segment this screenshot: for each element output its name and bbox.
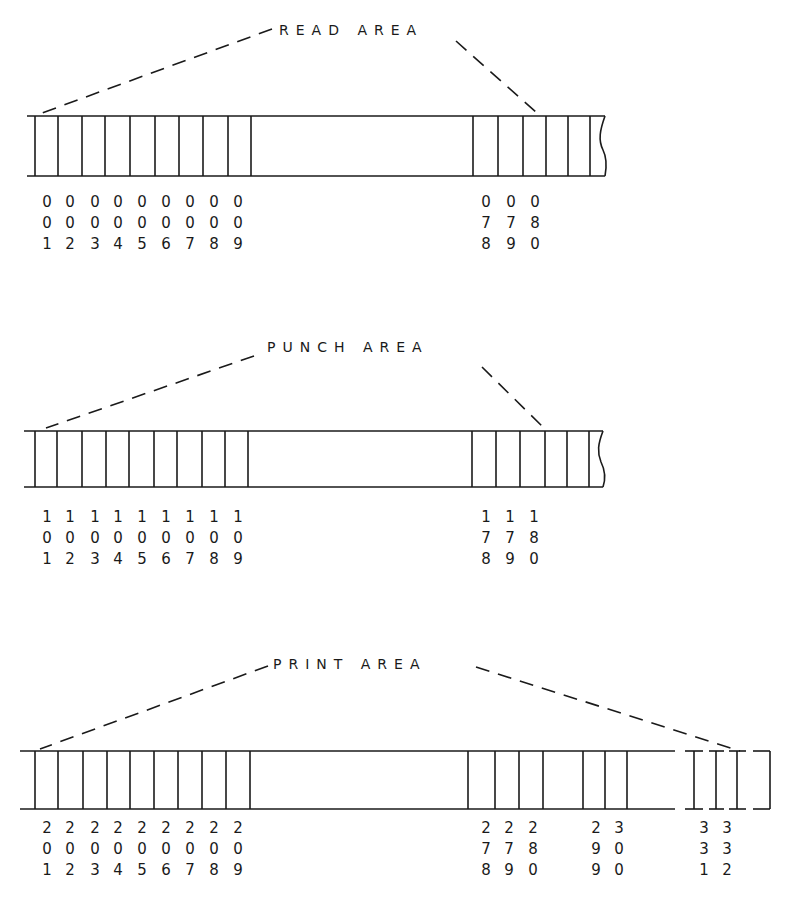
svg-text:0: 0 xyxy=(65,529,75,547)
svg-text:0: 0 xyxy=(614,861,624,879)
svg-text:2: 2 xyxy=(209,819,219,837)
svg-text:1: 1 xyxy=(42,508,52,526)
column-number: 0 7 9 xyxy=(506,193,516,253)
svg-text:7: 7 xyxy=(185,861,195,879)
svg-text:0: 0 xyxy=(161,214,171,232)
column-number: 1 0 8 xyxy=(209,508,219,568)
svg-text:3: 3 xyxy=(722,840,732,858)
svg-text:7: 7 xyxy=(185,550,195,568)
svg-text:0: 0 xyxy=(481,193,491,211)
svg-text:9: 9 xyxy=(591,840,601,858)
svg-text:1: 1 xyxy=(65,508,75,526)
column-number: 0 0 9 xyxy=(233,193,243,253)
read-strip xyxy=(27,116,606,176)
svg-text:0: 0 xyxy=(113,214,123,232)
column-number: 1 0 3 xyxy=(90,508,100,568)
svg-text:0: 0 xyxy=(233,529,243,547)
column-number: 2 0 2 xyxy=(65,819,75,879)
svg-text:9: 9 xyxy=(233,235,243,253)
read-area-leader-right xyxy=(456,41,537,113)
svg-text:0: 0 xyxy=(233,214,243,232)
svg-text:0: 0 xyxy=(137,214,147,232)
column-number: 1 0 9 xyxy=(233,508,243,568)
column-number: 0 0 7 xyxy=(185,193,195,253)
svg-text:1: 1 xyxy=(161,508,171,526)
svg-text:2: 2 xyxy=(504,819,514,837)
svg-text:3: 3 xyxy=(90,235,100,253)
svg-text:0: 0 xyxy=(185,193,195,211)
svg-text:7: 7 xyxy=(185,235,195,253)
svg-text:0: 0 xyxy=(161,529,171,547)
svg-text:1: 1 xyxy=(529,508,539,526)
punch-strip xyxy=(24,431,605,487)
svg-text:3: 3 xyxy=(614,819,624,837)
column-number: 2 0 1 xyxy=(42,819,52,879)
column-number: 1 0 4 xyxy=(113,508,123,568)
column-number: 1 0 5 xyxy=(137,508,147,568)
svg-text:9: 9 xyxy=(233,861,243,879)
column-number: 0 0 8 xyxy=(209,193,219,253)
punch-right-column-numbers: 1 7 8 1 7 9 1 8 0 xyxy=(481,508,539,568)
column-number: 1 7 8 xyxy=(481,508,491,568)
svg-text:0: 0 xyxy=(90,193,100,211)
print-area-leader-left xyxy=(40,666,268,749)
column-number: 3 3 2 xyxy=(722,819,732,879)
svg-text:2: 2 xyxy=(65,550,75,568)
svg-text:0: 0 xyxy=(42,840,52,858)
svg-text:0: 0 xyxy=(530,193,540,211)
svg-text:2: 2 xyxy=(591,819,601,837)
svg-text:0: 0 xyxy=(113,193,123,211)
svg-text:0: 0 xyxy=(185,214,195,232)
svg-text:9: 9 xyxy=(504,861,514,879)
svg-text:0: 0 xyxy=(90,214,100,232)
svg-text:0: 0 xyxy=(209,214,219,232)
svg-text:3: 3 xyxy=(699,840,709,858)
svg-text:2: 2 xyxy=(185,819,195,837)
svg-text:9: 9 xyxy=(233,550,243,568)
svg-text:2: 2 xyxy=(90,819,100,837)
column-number: 2 8 0 xyxy=(528,819,538,879)
svg-text:8: 8 xyxy=(209,861,219,879)
column-number: 2 0 3 xyxy=(90,819,100,879)
svg-text:4: 4 xyxy=(113,235,123,253)
svg-text:1: 1 xyxy=(185,508,195,526)
column-number: 0 0 4 xyxy=(113,193,123,253)
read-left-column-numbers: 0 0 1 0 0 2 0 0 3 0 0 4 0 0 5 xyxy=(42,193,243,253)
column-number: 2 0 8 xyxy=(209,819,219,879)
svg-text:3: 3 xyxy=(90,861,100,879)
svg-text:0: 0 xyxy=(209,840,219,858)
read-area-label: READ AREA xyxy=(279,22,423,38)
svg-text:1: 1 xyxy=(42,861,52,879)
svg-text:0: 0 xyxy=(506,193,516,211)
svg-text:8: 8 xyxy=(481,550,491,568)
svg-text:2: 2 xyxy=(65,235,75,253)
svg-text:0: 0 xyxy=(185,529,195,547)
torn-edge-icon xyxy=(600,116,606,176)
svg-text:0: 0 xyxy=(185,840,195,858)
svg-text:1: 1 xyxy=(233,508,243,526)
svg-text:1: 1 xyxy=(42,550,52,568)
print-area-section: PRINT AREA xyxy=(20,656,770,879)
punch-area-label: PUNCH AREA xyxy=(267,339,429,355)
svg-text:7: 7 xyxy=(504,840,514,858)
svg-text:2: 2 xyxy=(65,861,75,879)
read-area-section: READ AREA 0 xyxy=(27,22,606,253)
column-number: 2 9 9 xyxy=(591,819,601,879)
svg-text:1: 1 xyxy=(113,508,123,526)
svg-text:8: 8 xyxy=(481,861,491,879)
column-number: 2 7 8 xyxy=(481,819,491,879)
print-mid-column-numbers: 2 7 8 2 7 9 2 8 0 xyxy=(481,819,538,879)
column-number: 0 0 2 xyxy=(65,193,75,253)
punch-area-leader-left xyxy=(46,356,254,428)
svg-text:2: 2 xyxy=(481,819,491,837)
svg-text:8: 8 xyxy=(481,235,491,253)
column-number: 1 0 7 xyxy=(185,508,195,568)
column-number: 3 0 0 xyxy=(614,819,624,879)
svg-text:2: 2 xyxy=(42,819,52,837)
svg-text:0: 0 xyxy=(528,861,538,879)
column-number: 2 0 5 xyxy=(137,819,147,879)
svg-text:0: 0 xyxy=(161,840,171,858)
svg-text:0: 0 xyxy=(137,193,147,211)
svg-text:0: 0 xyxy=(209,529,219,547)
column-number: 2 0 7 xyxy=(185,819,195,879)
